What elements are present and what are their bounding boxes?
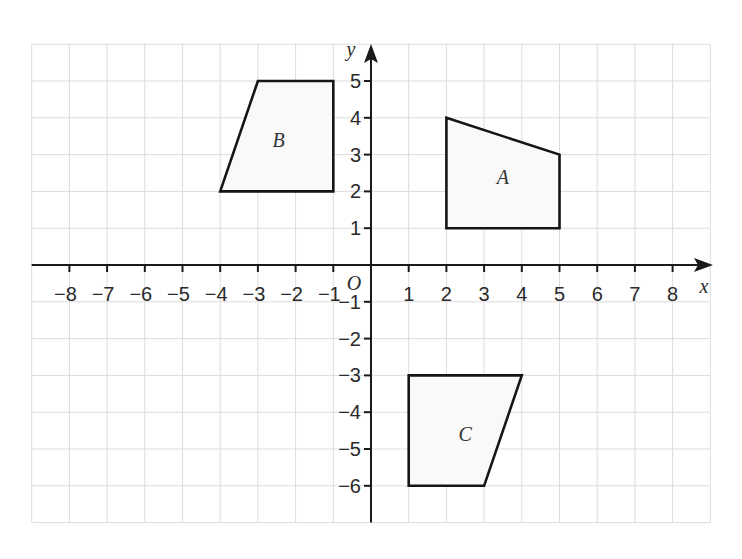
shape-label-b: B bbox=[273, 129, 285, 151]
x-tick-label: 2 bbox=[441, 283, 452, 305]
x-tick-label: 8 bbox=[667, 283, 678, 305]
x-tick-label: 1 bbox=[403, 283, 414, 305]
y-tick-label: 2 bbox=[350, 180, 361, 202]
x-tick-label: 4 bbox=[516, 283, 527, 305]
y-axis-label: y bbox=[345, 38, 356, 61]
x-axis-label: x bbox=[699, 275, 709, 297]
shapes-layer: ABC bbox=[220, 81, 559, 486]
y-tick-label: −6 bbox=[338, 475, 361, 497]
origin-label: O bbox=[347, 272, 361, 294]
y-tick-label: −2 bbox=[338, 328, 361, 350]
x-tick-label: −8 bbox=[54, 283, 77, 305]
x-tick-label: 5 bbox=[554, 283, 565, 305]
x-tick-label: −3 bbox=[242, 283, 265, 305]
shape-label-a: A bbox=[495, 166, 510, 188]
x-tick-label: −4 bbox=[205, 283, 228, 305]
x-tick-label: −7 bbox=[92, 283, 115, 305]
y-tick-label: 5 bbox=[350, 70, 361, 92]
y-tick-label: −3 bbox=[338, 364, 361, 386]
y-tick-label: −5 bbox=[338, 438, 361, 460]
x-tick-label: −5 bbox=[167, 283, 190, 305]
x-tick-label: −2 bbox=[280, 283, 303, 305]
y-tick-label: 4 bbox=[350, 107, 361, 129]
shape-label-c: C bbox=[459, 423, 473, 445]
x-tick-label: −6 bbox=[129, 283, 152, 305]
tick-labels: −8−7−6−5−4−3−2−11234567854321−1−2−3−4−5−… bbox=[54, 38, 709, 497]
y-tick-label: 1 bbox=[350, 217, 361, 239]
x-tick-label: 7 bbox=[629, 283, 640, 305]
coordinate-plane: ABC −8−7−6−5−4−3−2−11234567854321−1−2−3−… bbox=[0, 0, 742, 559]
y-tick-label: 3 bbox=[350, 144, 361, 166]
x-tick-label: 3 bbox=[479, 283, 490, 305]
y-tick-label: −4 bbox=[338, 401, 361, 423]
y-tick-label: −1 bbox=[338, 291, 361, 313]
x-tick-label: 6 bbox=[592, 283, 603, 305]
